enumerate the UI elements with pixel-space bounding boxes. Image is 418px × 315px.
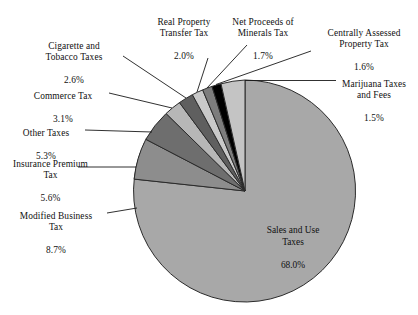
slice-label-net-proceeds-of-minerals-tax: Net Proceeds of Minerals Tax 1.7% bbox=[215, 6, 311, 62]
leader-line-cigarette-and-tobacco-taxes bbox=[123, 56, 186, 98]
leader-line-commerce-tax bbox=[109, 93, 172, 108]
slice-label-percent: 68.0% bbox=[281, 260, 305, 270]
slice-label-percent: 2.0% bbox=[174, 51, 194, 61]
slice-label-text: Net Proceeds of Minerals Tax bbox=[232, 17, 293, 38]
slice-label-text: Sales and Use Taxes bbox=[267, 225, 320, 246]
slice-label-sales-and-use-taxes: Sales and Use Taxes 68.0% bbox=[243, 214, 343, 271]
leader-line-other-taxes bbox=[85, 130, 152, 132]
slice-label-text: Commerce Tax bbox=[34, 91, 92, 101]
slice-label-insurance-premium-tax: Insurance Premium Tax 5.6% bbox=[1, 148, 100, 204]
slice-label-text: Insurance Premium Tax bbox=[13, 159, 88, 180]
slice-label-cigarette-and-tobacco-taxes: Cigarette and Tobacco Taxes 2.6% bbox=[25, 30, 123, 86]
slice-label-text: Centrally Assessed Property Tax bbox=[328, 28, 401, 49]
slice-label-marijuana-taxes-and-fees: Marijuana Taxes and Fees 1.5% bbox=[330, 68, 418, 124]
leader-line-real-property-transfer-tax bbox=[197, 58, 208, 92]
slice-label-text: Marijuana Taxes and Fees bbox=[342, 79, 406, 100]
slice-label-text: Cigarette and Tobacco Taxes bbox=[46, 41, 103, 62]
slice-label-percent: 8.7% bbox=[46, 245, 66, 255]
pie-chart: Real Property Transfer Tax 2.0% Net Proc… bbox=[0, 0, 418, 315]
slice-label-text: Modified Business Tax bbox=[20, 211, 92, 232]
slice-label-modified-business-tax: Modified Business Tax 8.7% bbox=[5, 200, 107, 256]
slice-label-text: Real Property Transfer Tax bbox=[157, 17, 210, 38]
slice-label-percent: 1.7% bbox=[253, 51, 273, 61]
slice-label-text: Other Taxes bbox=[23, 128, 69, 138]
slice-label-percent: 1.5% bbox=[364, 113, 384, 123]
leader-line-modified-business-tax bbox=[107, 208, 137, 213]
slice-label-centrally-assessed-property-tax: Centrally Assessed Property Tax 1.6% bbox=[312, 17, 416, 73]
